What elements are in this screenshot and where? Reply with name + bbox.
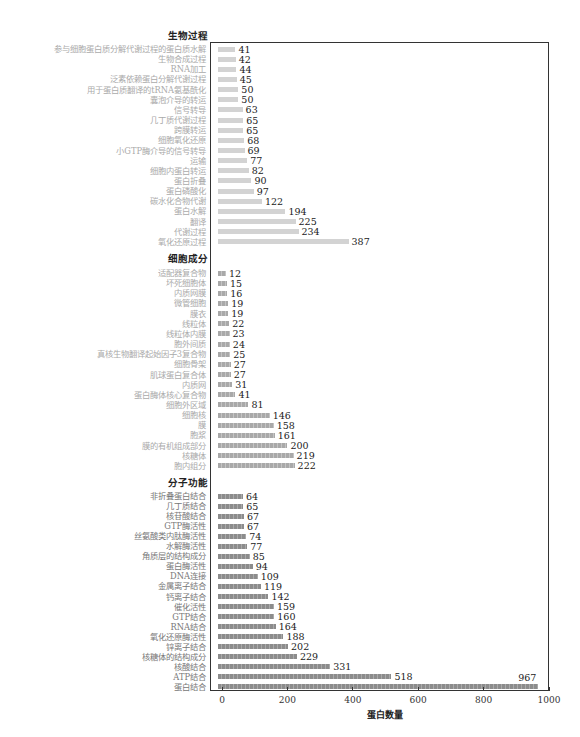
x-tick — [287, 687, 288, 691]
bar — [218, 352, 230, 357]
bar — [218, 87, 238, 92]
value-label: 63 — [246, 105, 258, 115]
value-label: 12 — [229, 269, 241, 279]
category-label: 细胞骨架 — [174, 359, 206, 369]
bar — [218, 219, 296, 224]
category-label: 细胞内蛋白转运 — [150, 166, 206, 176]
category-label: 蛋白酶活性 — [166, 561, 206, 571]
bar — [218, 138, 244, 143]
bar — [218, 281, 227, 286]
bar — [218, 271, 226, 276]
section-title-mf: 分子功能 — [168, 477, 208, 488]
category-label: 囊泡介导的转运 — [150, 95, 206, 105]
category-label: DNA连接 — [170, 571, 206, 581]
category-label: 核苷酸结合 — [166, 511, 206, 521]
value-label: 90 — [254, 176, 266, 186]
category-label: 泛素依赖蛋白分解代谢过程 — [110, 74, 206, 84]
value-label: 387 — [352, 237, 370, 247]
bar — [218, 463, 295, 468]
value-label: 331 — [333, 662, 351, 672]
value-label: 234 — [302, 227, 320, 237]
bar — [218, 229, 299, 234]
bar — [218, 342, 230, 347]
category-label: 氧化还原过程 — [158, 237, 206, 247]
category-label: 适配器复合物 — [158, 268, 206, 278]
bar — [218, 494, 243, 499]
category-label: 膜的有机组成部分 — [142, 441, 206, 451]
category-label: 蛋白磷酸化 — [166, 186, 206, 196]
value-label: 81 — [251, 400, 263, 410]
category-label: 细胞氧化还原 — [158, 135, 206, 145]
bar — [218, 47, 235, 52]
category-label: 内质网 — [182, 380, 206, 390]
category-label: 胞外间质 — [174, 339, 206, 349]
category-label: 信号转导 — [174, 105, 206, 115]
bar — [218, 239, 349, 244]
category-label: 核糖体 — [182, 451, 206, 461]
bar — [218, 67, 236, 72]
bar — [218, 199, 262, 204]
bar — [218, 189, 254, 194]
value-label: 41 — [238, 45, 250, 55]
x-tick-label: 800 — [475, 695, 492, 705]
category-label: 跨膜转运 — [174, 125, 206, 135]
category-label: 核酸结合 — [174, 662, 206, 672]
x-tick — [222, 687, 223, 691]
bar — [218, 107, 243, 112]
bar — [218, 574, 258, 579]
bar — [218, 594, 268, 599]
category-label: 钙离子结合 — [166, 592, 206, 602]
bar — [218, 57, 236, 62]
category-label: RNA结合 — [171, 622, 207, 632]
value-label: 64 — [246, 492, 258, 502]
value-label: 23 — [233, 329, 245, 339]
go-annotation-bar-chart: 生物过程参与细胞蛋白质分解代谢过程的蛋白质水解41生物合成过程42RNA加工44… — [0, 0, 580, 737]
category-label: 坏死细胞体 — [166, 278, 206, 288]
category-label: 催化活性 — [174, 602, 206, 612]
category-label: 蛋白结合 — [174, 682, 206, 692]
bar — [218, 178, 251, 183]
category-label: 角质层的结构成分 — [142, 551, 206, 561]
category-label: 翻译 — [190, 217, 206, 227]
bar — [218, 301, 228, 306]
category-label: 用于蛋白质翻译的tRNA氨基酰化 — [87, 85, 206, 95]
category-label: 真核生物翻译起始因子3复合物 — [97, 349, 206, 359]
category-label: 蛋白折叠 — [174, 176, 206, 186]
bar — [218, 674, 391, 679]
category-label: 几丁质代谢过程 — [150, 115, 206, 125]
bar — [218, 311, 228, 316]
bar — [218, 372, 231, 377]
category-label: 膜衣 — [190, 309, 206, 319]
category-label: 非折叠蛋白结合 — [150, 491, 206, 501]
category-label: 微管细胞 — [174, 298, 206, 308]
bar — [218, 413, 270, 418]
value-label: 229 — [300, 652, 318, 662]
value-label: 518 — [394, 672, 412, 682]
bar — [218, 684, 538, 689]
category-label: GTP结合 — [172, 612, 206, 622]
bar — [218, 453, 294, 458]
category-label: 蛋白酶体核心复合物 — [134, 390, 206, 400]
bar — [218, 554, 250, 559]
x-axis-label: 蛋白数量 — [367, 708, 403, 721]
bar — [218, 664, 330, 669]
category-label: 核糖体的结构成分 — [142, 652, 206, 662]
category-label: GTP酶活性 — [164, 521, 206, 531]
category-label: 碳水化合物代谢 — [150, 196, 206, 206]
category-label: 运输 — [190, 156, 206, 166]
category-label: 细胞外区域 — [166, 400, 206, 410]
category-label: 线粒体 — [182, 319, 206, 329]
bar — [218, 148, 245, 153]
category-label: 参与细胞蛋白质分解代谢过程的蛋白质水解 — [54, 44, 206, 54]
bar — [218, 443, 287, 448]
bar — [218, 128, 243, 133]
category-label: 肌球蛋白复合体 — [150, 370, 206, 380]
category-label: 蛋白水解 — [174, 206, 206, 216]
bar — [218, 604, 274, 609]
value-label: 967 — [518, 673, 536, 683]
bar — [218, 433, 275, 438]
category-label: 水解酶活性 — [166, 541, 206, 551]
category-label: 金属离子结合 — [158, 581, 206, 591]
category-label: 胞内组分 — [174, 461, 206, 471]
category-label: RNA加工 — [171, 64, 207, 74]
